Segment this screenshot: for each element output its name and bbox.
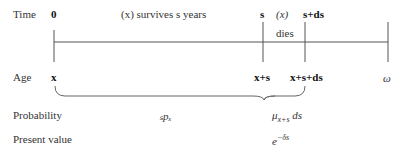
time-s-ds: s+ds (303, 9, 324, 20)
age-x: x (51, 72, 57, 83)
row-label-time: Time (13, 9, 36, 20)
row-label-probability: Probability (13, 110, 62, 121)
row-label-present-value: Present value (13, 134, 72, 145)
timeline-diagram (0, 0, 405, 155)
time-0: 0 (51, 9, 57, 20)
prob-force: μx+s ds (272, 110, 302, 124)
pv-discount: e−δs (272, 134, 289, 147)
brace-death (264, 86, 305, 100)
time-s: s (260, 9, 264, 20)
prob-survival: ₛpₓ (159, 111, 172, 122)
row-label-age: Age (13, 72, 31, 83)
brace-survival (55, 86, 275, 100)
age-omega: ω (383, 73, 391, 84)
event-survives: (x) survives s years (121, 9, 206, 20)
event-dies: dies (276, 28, 294, 39)
x-paren: (x) (276, 9, 288, 20)
age-x-s: x+s (254, 72, 270, 83)
age-x-s-ds: x+s+ds (290, 72, 323, 83)
